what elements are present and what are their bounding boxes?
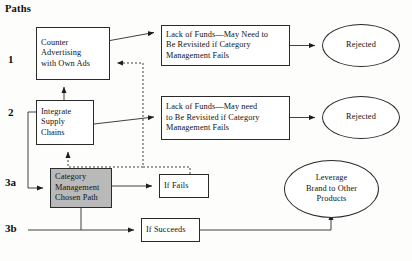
- integrate-line-1: Integrate: [41, 107, 91, 117]
- row-label-path-3b: 3b: [5, 222, 17, 234]
- lack-of-funds-1-line-1: Lack of Funds—May Need to: [166, 30, 287, 40]
- lack-of-funds-1-line-2: Be Revisited if Category: [166, 40, 287, 50]
- connector-counter-advertising-to-lack-of-funds-1: [110, 33, 154, 41]
- leverage-brand-line-2: Brand to Other: [306, 184, 357, 194]
- rejected-2-label: Rejected: [346, 112, 376, 122]
- lack-of-funds-2-line-2: to Be Revisited if Category: [166, 113, 287, 123]
- counter-advertising-line-2: Advertising: [41, 48, 107, 58]
- row-label-path-2: 2: [8, 106, 14, 118]
- leverage-brand-line-3: Products: [317, 194, 347, 204]
- lack-of-funds-1-line-3: Management Fails: [166, 51, 287, 61]
- counter-advertising-line-1: Counter: [41, 38, 107, 48]
- if-fails-label: If Fails: [164, 181, 206, 191]
- category-management-line-2: Management: [55, 183, 109, 193]
- category-management-line-3: Chosen Path: [55, 193, 109, 203]
- if-succeeds-box: If Succeeds: [141, 218, 200, 242]
- leverage-brand-line-1: Leverage: [316, 173, 348, 183]
- integrate-line-2: Supply: [41, 117, 91, 127]
- counter-advertising-box: Counter Advertising with Own Ads: [36, 27, 110, 80]
- counter-advertising-line-3: with Own Ads: [41, 59, 107, 69]
- lack-of-funds-box-2: Lack of Funds—May need to Be Revisited i…: [161, 96, 290, 140]
- lack-of-funds-2-line-3: Management Fails: [166, 123, 287, 133]
- integrate-supply-chains-box: Integrate Supply Chains: [36, 100, 94, 145]
- if-succeeds-label: If Succeeds: [146, 225, 197, 235]
- row-label-path-3a: 3a: [5, 176, 16, 188]
- rejected-ellipse-1: Rejected: [322, 24, 400, 67]
- category-management-line-1: Category: [55, 172, 109, 182]
- leverage-brand-ellipse: Leverage Brand to Other Products: [284, 160, 379, 218]
- connector-if-fails-feedback-to-integrate: [68, 152, 143, 167]
- integrate-line-3: Chains: [41, 128, 91, 138]
- connector-category-management-to-if-succeeds: [81, 208, 134, 230]
- if-fails-box: If Fails: [159, 174, 209, 198]
- rejected-1-label: Rejected: [346, 40, 376, 50]
- row-label-path-1: 1: [8, 53, 14, 65]
- rejected-ellipse-2: Rejected: [322, 96, 400, 139]
- connector-integrate-to-lack-of-funds-2: [94, 117, 154, 124]
- paths-diagram: Paths: [0, 0, 412, 261]
- connector-if-succeeds-to-leverage-brand: [200, 214, 331, 230]
- category-management-chosen-path-box: Category Management Chosen Path: [50, 168, 112, 208]
- lack-of-funds-box-1: Lack of Funds—May Need to Be Revisited i…: [161, 25, 290, 66]
- lack-of-funds-2-line-1: Lack of Funds—May need: [166, 102, 287, 112]
